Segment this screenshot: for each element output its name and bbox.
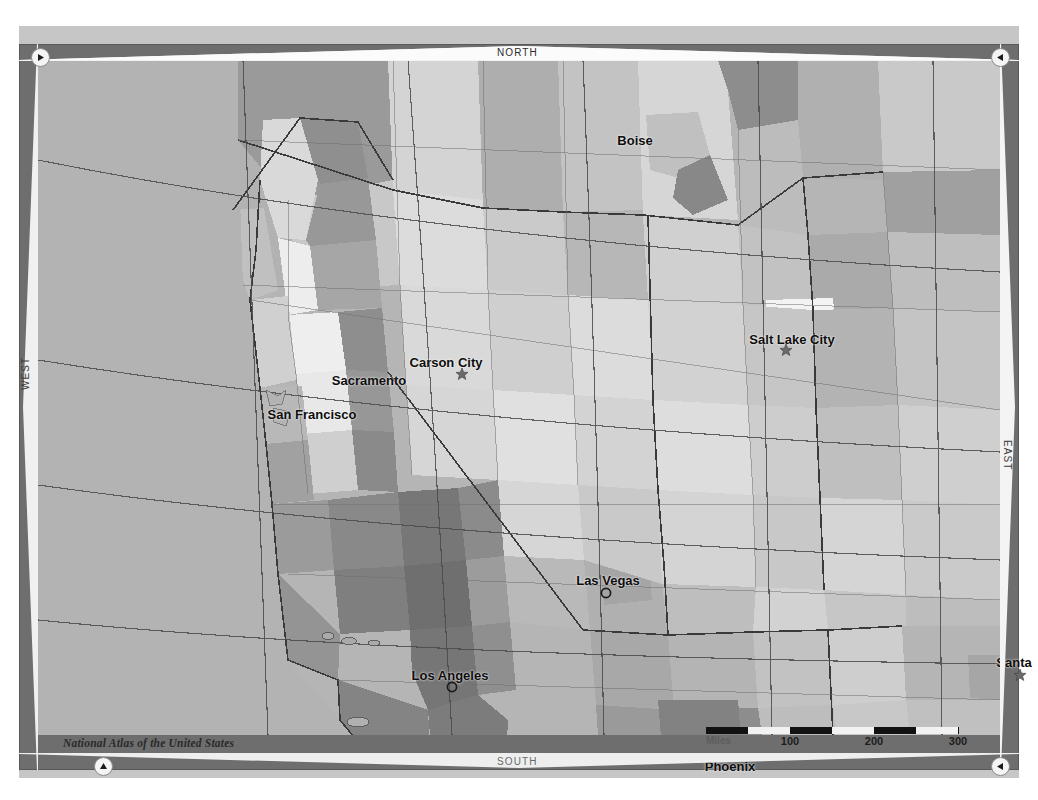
map-viewport[interactable] [38,60,1000,735]
pan-northeast-button[interactable] [991,48,1010,67]
capital-star-marker [1013,668,1027,686]
scale-bar-tick [790,727,791,734]
map-application: BoiseSalt Lake CityCarson CitySacramento… [0,0,1038,800]
capital-star-marker [455,367,469,385]
scale-bar-tick-label: 200 [865,735,883,747]
scale-bar-tick-label: 300 [949,735,967,747]
triangle-left-down-icon [996,762,1005,771]
scale-bar-segment [706,727,748,734]
west-label: WEST [20,357,31,390]
pan-northwest-button[interactable] [31,48,50,67]
scale-bar-segment [874,727,916,734]
city-circle-marker [599,586,613,604]
city-circle-marker [445,680,459,698]
scale-bar-segment [748,727,790,734]
east-label: EAST [1002,440,1013,471]
scale-bar: 100200300 Miles [706,727,958,757]
scale-bar-tick [874,727,875,734]
south-label: SOUTH [497,756,538,767]
city-label: Carson City [410,355,483,370]
triangle-up-icon [99,762,108,771]
city-label: San Francisco [268,407,357,422]
scale-bar-tick-label: 100 [781,735,799,747]
pan-southeast-button[interactable] [991,757,1010,776]
north-label: NORTH [497,47,538,58]
city-label: Sacramento [332,373,406,388]
scale-bar-segment [832,727,874,734]
map-attribution: National Atlas of the United States [63,737,234,749]
capital-star-marker [779,343,793,361]
city-label: Phoenix [705,759,756,774]
city-label: Boise [617,133,652,148]
scale-bar-tick [958,727,959,734]
scale-bar-segment [916,727,958,734]
pan-southwest-button[interactable] [94,757,113,776]
map-canvas[interactable] [38,60,1000,735]
scale-bar-segments [706,727,958,734]
triangle-left-icon [996,53,1005,62]
scale-bar-segment [790,727,832,734]
scale-bar-unit-label: Miles [706,735,731,746]
triangle-right-icon [36,53,45,62]
